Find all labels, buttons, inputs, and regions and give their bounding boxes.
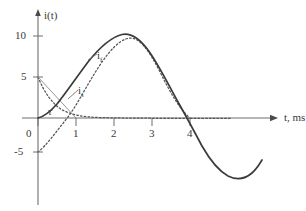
x-axis-ticks [38,118,190,126]
y-tick-label-5: 5 [21,71,27,82]
curve-label-free: is [78,85,84,99]
leader-is [68,90,78,99]
y-tick-label-10: 10 [15,30,26,41]
plot-canvas [0,0,306,211]
x-tick-label-4: 4 [187,128,193,139]
leader-if [88,54,97,60]
curve-total-current [38,34,262,178]
curve-label-free-subscript: s [81,91,84,99]
curve-label-forced-subscript: f [100,56,102,64]
x-axis-arrowhead [270,115,278,121]
axis-lines [22,9,278,205]
x-axis-label: t, ms [284,112,305,123]
y-tick-label-neg5: -5 [14,146,23,157]
x-tick-label-3: 3 [149,128,155,139]
tau-label: τ [48,106,52,117]
transient-current-plot: i(t) t, ms 10 5 -5 0 1 2 3 4 τ if is [0,0,306,211]
x-tick-label-0: 0 [26,128,32,139]
y-axis-arrowhead [35,9,41,16]
x-tick-label-1: 1 [73,128,79,139]
curve-label-forced: if [97,50,102,64]
x-tick-label-2: 2 [111,128,117,139]
y-axis-label: i(t) [44,10,57,21]
curve-free-component [38,77,230,118]
